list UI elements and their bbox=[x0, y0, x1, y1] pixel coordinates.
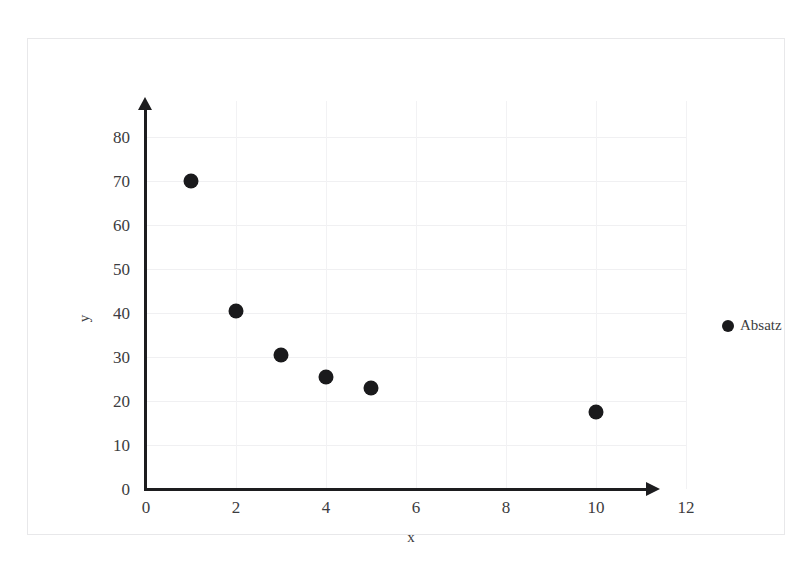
data-point[interactable] bbox=[229, 303, 244, 318]
x-axis-title: x bbox=[396, 529, 426, 546]
x-axis-tick-label: 6 bbox=[396, 499, 436, 516]
legend-marker-icon bbox=[722, 320, 734, 332]
gridline-vertical bbox=[506, 101, 507, 489]
y-axis-tick-label: 40 bbox=[84, 305, 130, 322]
y-axis-line bbox=[144, 107, 147, 491]
x-axis-tick-label: 8 bbox=[486, 499, 526, 516]
legend-item-label: Absatz bbox=[740, 317, 782, 334]
data-point[interactable] bbox=[364, 380, 379, 395]
gridline-vertical bbox=[596, 101, 597, 489]
y-axis-arrow-icon bbox=[138, 97, 152, 110]
x-axis-arrow-icon bbox=[646, 482, 660, 496]
gridline-vertical bbox=[326, 101, 327, 489]
y-axis-tick-label: 70 bbox=[84, 173, 130, 190]
chart-frame: y x Absatz 01020304050607080024681012 bbox=[27, 38, 785, 535]
gridline-vertical bbox=[686, 101, 687, 489]
y-axis-tick-label: 50 bbox=[84, 261, 130, 278]
data-point[interactable] bbox=[274, 347, 289, 362]
x-axis-tick-label: 2 bbox=[216, 499, 256, 516]
x-axis-tick-label: 10 bbox=[576, 499, 616, 516]
data-point[interactable] bbox=[589, 405, 604, 420]
data-point[interactable] bbox=[319, 369, 334, 384]
gridline-vertical bbox=[416, 101, 417, 489]
plot-area bbox=[146, 101, 686, 489]
x-axis-tick-label: 4 bbox=[306, 499, 346, 516]
x-axis-tick-label: 12 bbox=[666, 499, 706, 516]
y-axis-tick-label: 0 bbox=[84, 481, 130, 498]
y-axis-tick-label: 30 bbox=[84, 349, 130, 366]
gridline-vertical bbox=[236, 101, 237, 489]
y-axis-tick-label: 20 bbox=[84, 393, 130, 410]
chart-legend: Absatz bbox=[722, 317, 782, 334]
y-axis-tick-label: 60 bbox=[84, 217, 130, 234]
y-axis-tick-label: 80 bbox=[84, 129, 130, 146]
top-cut-off-text bbox=[0, 0, 809, 8]
data-point[interactable] bbox=[184, 174, 199, 189]
y-axis-tick-label: 10 bbox=[84, 437, 130, 454]
x-axis-line bbox=[144, 488, 649, 491]
x-axis-tick-label: 0 bbox=[126, 499, 166, 516]
